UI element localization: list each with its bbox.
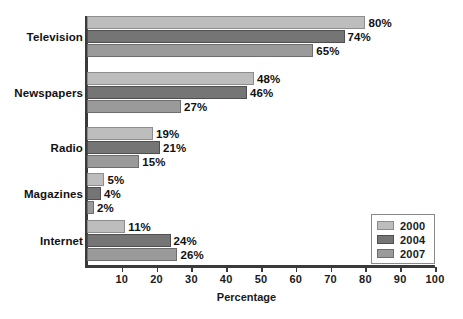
category-label: Magazines (24, 188, 83, 200)
category-label: Television (27, 31, 83, 43)
bar-2000-radio[interactable] (87, 127, 153, 140)
bar-2007-television[interactable] (87, 44, 313, 57)
bar-2004-television[interactable] (87, 30, 345, 43)
x-axis-title: Percentage (0, 291, 463, 303)
legend-label: 2000 (400, 220, 425, 232)
bar-row: 80% (87, 16, 435, 29)
bar-value-label: 11% (128, 221, 151, 233)
legend-label: 2004 (400, 234, 425, 246)
category-label: Radio (51, 142, 83, 154)
x-tick (226, 267, 228, 272)
bar-chart: Television80%74%65%Newspapers48%46%27%Ra… (0, 0, 463, 319)
bar-2004-newspapers[interactable] (87, 86, 247, 99)
legend-swatch-icon (377, 221, 394, 230)
bar-2000-magazines[interactable] (87, 173, 104, 186)
bar-row: 19% (87, 127, 435, 140)
bar-row: 46% (87, 86, 435, 99)
x-tick (157, 267, 159, 272)
legend-swatch-icon (377, 235, 394, 244)
bar-group-newspapers: Newspapers48%46%27% (87, 72, 435, 114)
bar-group-television: Television80%74%65% (87, 16, 435, 58)
bar-row: 65% (87, 44, 435, 57)
bar-value-label: 2% (97, 202, 114, 214)
x-tick (365, 267, 367, 272)
bar-row: 4% (87, 187, 435, 200)
bar-value-label: 5% (107, 174, 124, 186)
bar-value-label: 65% (316, 45, 339, 57)
x-tick (191, 267, 193, 272)
category-label: Internet (40, 235, 83, 247)
x-tick (435, 267, 437, 272)
bar-row: 48% (87, 72, 435, 85)
bar-row: 21% (87, 141, 435, 154)
bar-2007-magazines[interactable] (87, 201, 94, 214)
bar-2007-internet[interactable] (87, 248, 177, 261)
bar-group-magazines: Magazines5%4%2% (87, 173, 435, 215)
bar-row: 15% (87, 155, 435, 168)
bar-row: 5% (87, 173, 435, 186)
bar-2000-internet[interactable] (87, 220, 125, 233)
bar-2000-television[interactable] (87, 16, 365, 29)
bar-2007-newspapers[interactable] (87, 100, 181, 113)
legend-swatch-icon (377, 249, 394, 258)
bar-row: 74% (87, 30, 435, 43)
bar-value-label: 19% (156, 128, 179, 140)
bar-value-label: 15% (142, 156, 165, 168)
x-tick (296, 267, 298, 272)
x-tick (261, 267, 263, 272)
legend-item-2000[interactable]: 2000 (377, 219, 430, 232)
x-tick (122, 267, 124, 272)
bar-value-label: 21% (163, 142, 186, 154)
bar-value-label: 24% (174, 235, 197, 247)
x-axis-line (85, 265, 435, 268)
x-tick (331, 267, 333, 272)
bar-value-label: 48% (257, 73, 280, 85)
bar-value-label: 46% (250, 87, 273, 99)
category-label: Newspapers (14, 87, 83, 99)
bar-value-label: 4% (104, 188, 121, 200)
bar-value-label: 27% (184, 101, 207, 113)
bar-group-radio: Radio19%21%15% (87, 127, 435, 169)
legend-item-2007[interactable]: 2007 (377, 247, 430, 260)
x-tick (400, 267, 402, 272)
x-tick-label: 100 (415, 273, 455, 285)
bar-row: 2% (87, 201, 435, 214)
bar-value-label: 80% (368, 17, 391, 29)
legend-label: 2007 (400, 248, 425, 260)
bar-value-label: 74% (348, 31, 371, 43)
bar-2004-radio[interactable] (87, 141, 160, 154)
bar-2000-newspapers[interactable] (87, 72, 254, 85)
bar-2007-radio[interactable] (87, 155, 139, 168)
chart-legend: 200020042007 (371, 214, 435, 264)
bar-2004-internet[interactable] (87, 234, 171, 247)
legend-item-2004[interactable]: 2004 (377, 233, 430, 246)
bar-value-label: 26% (180, 249, 203, 261)
bar-row: 27% (87, 100, 435, 113)
bar-2004-magazines[interactable] (87, 187, 101, 200)
